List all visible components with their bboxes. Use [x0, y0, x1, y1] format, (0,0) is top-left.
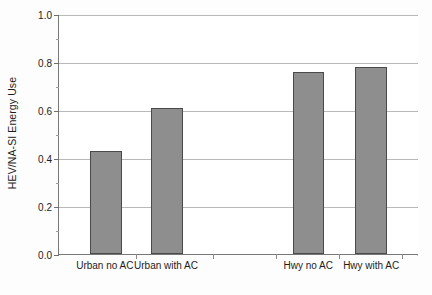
bar — [90, 151, 122, 254]
y-axis-tick-minor — [56, 87, 59, 88]
y-axis-tick-labels: 0.00.20.40.60.81.0 — [22, 0, 56, 295]
x-axis-tick-label: Urban with AC — [134, 260, 198, 271]
y-axis-tick-major — [54, 159, 59, 160]
y-axis-title-text: HEV/NA-SI Energy Use — [6, 76, 18, 188]
y-axis-tick-major — [54, 207, 59, 208]
y-axis-tick-minor — [56, 135, 59, 136]
y-axis-tick-label: 0.6 — [38, 106, 52, 117]
y-axis-tick-minor — [56, 231, 59, 232]
x-axis-tick-label: Hwy with AC — [343, 260, 399, 271]
y-axis-tick-label: 0.4 — [38, 154, 52, 165]
y-axis-tick-minor — [56, 39, 59, 40]
bar — [151, 108, 183, 254]
y-axis-tick-major — [54, 63, 59, 64]
gridline — [59, 15, 418, 16]
gridline — [59, 63, 418, 64]
x-axis-tick-label: Hwy no AC — [283, 260, 332, 271]
y-axis-tick-label: 0.2 — [38, 202, 52, 213]
plot-area — [58, 15, 418, 255]
y-axis-tick-label: 1.0 — [38, 10, 52, 21]
x-axis-tick-labels: Urban no ACUrban with ACHwy no ACHwy wit… — [58, 258, 418, 280]
y-axis-tick-minor — [56, 183, 59, 184]
bar — [293, 72, 325, 254]
x-axis-tick-label: Urban no AC — [76, 260, 133, 271]
bar-chart: HEV/NA-SI Energy Use 0.00.20.40.60.81.0 … — [0, 0, 432, 295]
y-axis-tick-label: 0.0 — [38, 250, 52, 261]
bar — [355, 67, 387, 254]
y-axis-tick-major — [54, 255, 59, 256]
y-axis-tick-major — [54, 111, 59, 112]
y-axis-tick-label: 0.8 — [38, 58, 52, 69]
y-axis-title: HEV/NA-SI Energy Use — [0, 0, 24, 265]
y-axis-tick-major — [54, 15, 59, 16]
